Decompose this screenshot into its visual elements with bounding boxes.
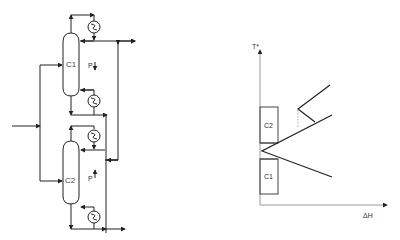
column-c2 bbox=[63, 141, 79, 204]
c2-label: C2 bbox=[65, 177, 75, 185]
diagram-canvas bbox=[0, 0, 400, 240]
c2-curve bbox=[298, 85, 330, 122]
th-chart bbox=[260, 50, 387, 205]
x-axis-label: ΔH bbox=[363, 212, 373, 219]
c1-condenser-loop bbox=[71, 15, 135, 41]
box-c1-label: C1 bbox=[264, 173, 273, 180]
c1-label: C1 bbox=[66, 61, 76, 69]
box-c2-label: C2 bbox=[264, 122, 273, 129]
c2-pressure-label: P bbox=[88, 175, 93, 182]
flowsheet bbox=[12, 15, 135, 233]
c2-reboiler-loop bbox=[71, 204, 125, 229]
c1-pressure-label: P bbox=[88, 62, 93, 69]
y-axis-label: T* bbox=[252, 43, 259, 50]
